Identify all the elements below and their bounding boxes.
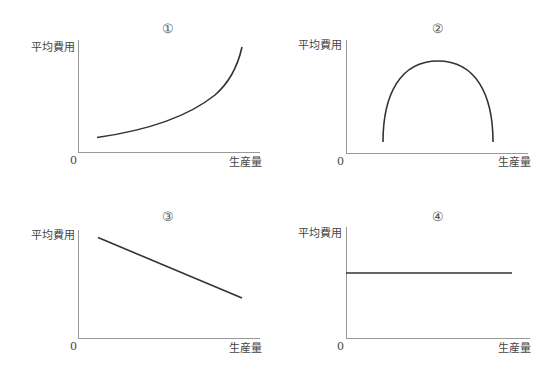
curve-arch [383,61,493,142]
chart-4-origin: 0 [337,341,344,352]
line-decreasing [98,238,242,299]
chart-3 [78,230,260,339]
chart-3-title: ③ [162,210,174,223]
chart-4 [346,227,530,339]
chart-3-x-label: 生産量 [229,343,262,354]
diagram-canvas [0,0,559,375]
chart-1-y-label: 平均費用 [31,42,75,53]
chart-2-x-label: 生産量 [498,157,531,168]
chart-1-title: ① [162,22,174,35]
chart-3-y-label: 平均費用 [31,230,75,241]
chart-3-origin: 0 [70,341,77,352]
chart-4-y-label: 平均費用 [298,228,342,239]
chart-4-title: ④ [432,210,444,223]
chart-2-y-label: 平均費用 [298,40,342,51]
chart-1-x-label: 生産量 [229,157,262,168]
chart-4-x-label: 生産量 [498,343,531,354]
chart-2 [346,40,528,154]
chart-1 [78,40,260,153]
chart-2-origin: 0 [337,156,344,167]
chart-2-title: ② [432,22,444,35]
curve-increasing [97,47,242,138]
chart-1-origin: 0 [70,155,77,166]
